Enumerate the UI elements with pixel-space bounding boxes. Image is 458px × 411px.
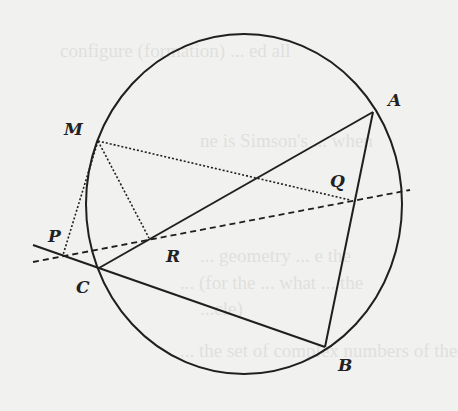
label-b: B	[337, 355, 352, 375]
perp-mq	[98, 141, 350, 200]
perp-mp	[63, 141, 98, 255]
perp-mr	[98, 141, 149, 238]
simson-line	[33, 190, 410, 262]
label-q: Q	[330, 171, 345, 191]
label-m: M	[63, 119, 84, 139]
label-c: C	[76, 277, 90, 297]
label-r: R	[165, 246, 180, 266]
label-a: A	[386, 90, 401, 110]
label-p: P	[47, 226, 62, 246]
